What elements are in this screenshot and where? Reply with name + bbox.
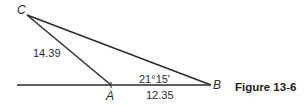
vertex-b-label: B (213, 79, 221, 91)
vertex-c-label: C (17, 4, 26, 16)
side-ca-length: 14.39 (33, 48, 61, 59)
vertex-a-label: A (106, 90, 114, 102)
side-ab-length: 12.35 (146, 90, 174, 101)
angle-b-value: 21°15' (139, 74, 170, 85)
figure-caption: Figure 13-6 (235, 81, 296, 93)
